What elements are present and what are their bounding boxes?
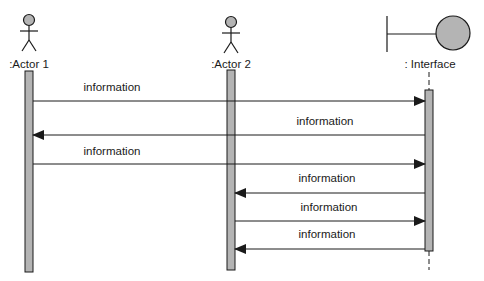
message[interactable]: information bbox=[235, 228, 425, 249]
message-label: information bbox=[299, 172, 356, 184]
participant-label: :Actor 2 bbox=[211, 58, 251, 70]
message-label: information bbox=[84, 145, 141, 157]
message[interactable]: information bbox=[235, 172, 425, 193]
activation-bar bbox=[425, 90, 433, 251]
participant-label: : Interface bbox=[404, 58, 455, 70]
activation-bar bbox=[25, 71, 33, 272]
activation-bar bbox=[227, 70, 235, 270]
message-label: information bbox=[299, 228, 356, 240]
boundary-icon bbox=[387, 16, 470, 52]
participant-interface[interactable]: : Interface bbox=[387, 16, 470, 270]
participant-label: :Actor 1 bbox=[9, 58, 49, 70]
message-label: information bbox=[301, 201, 358, 213]
message-label: information bbox=[84, 81, 141, 93]
actor-icon bbox=[222, 17, 240, 54]
actor-icon bbox=[20, 15, 38, 52]
message[interactable]: information bbox=[235, 201, 425, 221]
sequence-diagram: :Actor 1 :Actor 2 : Interface informatio… bbox=[0, 0, 484, 281]
participant-actor-1[interactable]: :Actor 1 bbox=[9, 15, 49, 273]
participant-actor-2[interactable]: :Actor 2 bbox=[211, 17, 251, 271]
message-label: information bbox=[297, 115, 354, 127]
